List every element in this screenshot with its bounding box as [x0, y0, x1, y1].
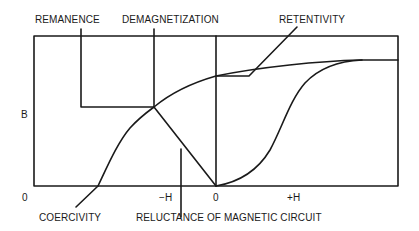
- label-retentivity: RETENTIVITY: [279, 15, 345, 25]
- label-coercivity: COERCIVITY: [39, 213, 101, 223]
- axis-label-pos-h: +H: [287, 193, 300, 203]
- label-remanence: REMANENCE: [35, 15, 100, 25]
- axis-label-neg-h: −H: [159, 193, 172, 203]
- remanence-pointer: [81, 29, 154, 107]
- reluctance-load-line: [154, 107, 216, 186]
- hysteresis-curve: [98, 60, 398, 186]
- label-reluctance: RELUCTANCE OF MAGNETIC CIRCUIT: [136, 213, 322, 223]
- initial-magnetization-curve: [216, 60, 362, 186]
- magnetization-diagram: REMANENCE DEMAGNETIZATION RETENTIVITY B …: [0, 0, 419, 231]
- axis-label-b: B: [21, 110, 28, 120]
- axis-label-origin-left: 0: [22, 193, 28, 203]
- diagram-graphics: [0, 0, 419, 231]
- axis-label-origin-center: 0: [213, 193, 219, 203]
- label-demagnetization: DEMAGNETIZATION: [122, 15, 219, 25]
- coercivity-pointer: [76, 186, 98, 207]
